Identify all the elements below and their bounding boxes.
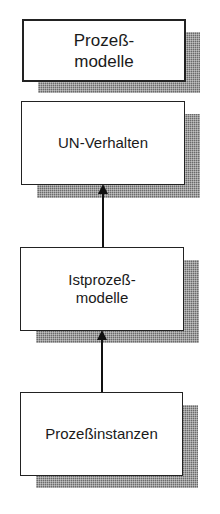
arrow-prozessinstanzen-to-istprozessmodelle — [97, 330, 107, 392]
node-label: Istprozeß- modelle — [68, 271, 136, 307]
title-box: Prozeß- modelle — [22, 19, 186, 82]
node-un-verhalten: UN-Verhalten — [21, 101, 185, 185]
node-prozessinstanzen: Prozeßinstanzen — [20, 392, 183, 476]
title-box-label: Prozeß- modelle — [74, 30, 134, 72]
node-istprozessmodelle: Istprozeß- modelle — [20, 247, 184, 331]
node-label: Prozeßinstanzen — [45, 425, 158, 443]
arrow-istprozessmodelle-to-un-verhalten — [98, 184, 108, 247]
node-label: UN-Verhalten — [58, 134, 148, 152]
